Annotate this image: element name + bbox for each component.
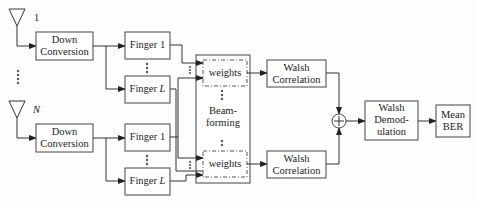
label-line: forming [196, 117, 250, 129]
label-line: Conversion [36, 138, 93, 150]
finger-text: Finger [130, 39, 160, 50]
label-line: Walsh [267, 62, 326, 74]
ellipsis-dots [17, 70, 19, 84]
mean-ber-label: Mean BER [436, 109, 470, 133]
finger-text: Finger [130, 175, 160, 186]
finger-text: Finger [130, 131, 160, 142]
walsh-demodulation-label: Walsh Demod- ulation [365, 102, 418, 138]
label-line: Correlation [267, 165, 326, 177]
finger-text: Finger [130, 83, 160, 94]
label-line: Beam- [196, 105, 250, 117]
finger-l-label-branch-1: Finger L [125, 83, 170, 95]
label-line: Mean [436, 109, 470, 121]
label-line: Walsh [267, 153, 326, 165]
label-line: Down [36, 126, 93, 138]
weights-label-top: weights [203, 67, 247, 79]
finger-index: L [160, 83, 166, 94]
antenna-1-label: 1 [34, 12, 39, 24]
antenna-n-label: N [33, 104, 40, 116]
down-conversion-label-1: Down Conversion [36, 34, 93, 58]
label-line: Down [36, 34, 93, 46]
receiver-block-diagram: 1 N Down Conversion Down Conversion Fing… [0, 0, 477, 205]
summer-icon [332, 114, 346, 128]
weights-label-bottom: weights [203, 158, 247, 170]
walsh-correlation-label-bottom: Walsh Correlation [267, 153, 326, 177]
finger-l-label-branch-n: Finger L [125, 175, 170, 187]
beamforming-label: Beam- forming [196, 105, 250, 129]
antenna-1-icon [9, 9, 25, 46]
antenna-n-icon [9, 101, 25, 138]
label-line: ulation [365, 126, 418, 138]
label-line: Walsh [365, 102, 418, 114]
down-conversion-label-n: Down Conversion [36, 126, 93, 150]
label-line: Conversion [36, 46, 93, 58]
label-line: Demod- [365, 114, 418, 126]
finger-index: 1 [160, 131, 165, 142]
label-line: BER [436, 121, 470, 133]
walsh-correlation-label-top: Walsh Correlation [267, 62, 326, 86]
finger-1-label-branch-n: Finger 1 [125, 131, 170, 143]
finger-index: L [160, 175, 166, 186]
ellipsis-dots [189, 66, 191, 169]
finger-1-label-branch-1: Finger 1 [125, 39, 170, 51]
label-line: Correlation [267, 74, 326, 86]
finger-index: 1 [160, 39, 165, 50]
